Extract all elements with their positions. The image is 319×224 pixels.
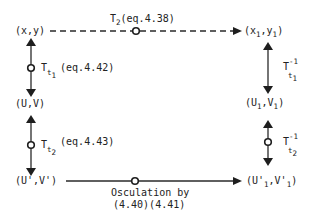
transformation-diagram: T2(eq.4.38) (x,y) (x1,y1) (U,V) (U1,V1) … <box>0 0 319 224</box>
arrowhead-up <box>263 120 273 128</box>
node-UpVp: (U',V') <box>15 175 57 186</box>
edge-node <box>265 139 272 146</box>
edge-right-lower-tt2-inv: T-1t2 <box>263 120 298 166</box>
arrowhead-down <box>263 158 273 166</box>
arrowhead-right <box>233 27 242 35</box>
edge-left-upper-tt1: Tt1(eq.4.42) <box>26 38 114 97</box>
edge-label-osculation-line1: Osculation by <box>111 187 189 198</box>
node-U1V1: (U1,V1) <box>245 97 284 111</box>
edge-node <box>133 28 140 35</box>
edge-label-t2: T2(eq.4.38) <box>110 13 175 27</box>
edge-label-osculation-line2: (4.40)(4.41) <box>113 199 185 210</box>
edge-label-tt1: Tt1(eq.4.42) <box>41 62 114 80</box>
edge-label-tt2: Tt2(eq.4.43) <box>41 136 114 157</box>
edge-node <box>132 178 139 185</box>
edge-label-tt1-inv: T-1t1 <box>283 57 298 83</box>
arrowhead-up <box>26 115 36 123</box>
edge-right-upper-tt1-inv: T-1t1 <box>263 42 298 94</box>
node-xy: (x,y) <box>15 25 45 36</box>
edge-node <box>28 65 35 72</box>
edge-top-t2: T2(eq.4.38) <box>50 13 242 35</box>
node-x1y1: (x1,y1) <box>244 25 283 39</box>
node-UV: (U,V) <box>15 98 45 109</box>
arrowhead-up <box>26 38 36 46</box>
node-Up1Vp1: (U'1,V'1) <box>246 175 297 189</box>
arrowhead-up <box>263 42 273 50</box>
arrowhead-down <box>263 86 273 94</box>
edge-left-lower-tt2: Tt2(eq.4.43) <box>26 115 114 176</box>
edge-bottom-osculation: Osculation by (4.40)(4.41) <box>66 177 242 210</box>
arrowhead-right <box>233 177 242 185</box>
edge-node <box>28 142 35 149</box>
edge-label-tt2-inv: T-1t2 <box>283 132 298 158</box>
arrowhead-down <box>26 89 36 97</box>
